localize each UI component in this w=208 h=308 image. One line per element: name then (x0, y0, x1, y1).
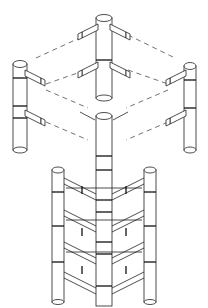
top-center-column-unit (78, 15, 130, 102)
left-column-unit (13, 61, 45, 154)
front-center-column-unit (80, 112, 128, 306)
right-column-unit (166, 63, 196, 154)
technical-drawing (0, 0, 208, 308)
